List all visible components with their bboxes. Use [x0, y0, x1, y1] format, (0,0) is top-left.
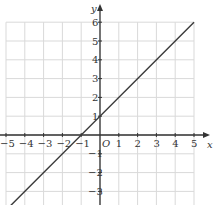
x-tick-label: 5 — [191, 138, 197, 149]
tick-labels: −5−4−3−2−112345654321−1−2−3−4Oxy — [0, 3, 213, 205]
y-axis-arrow-icon — [97, 4, 103, 11]
x-axis-label: x — [207, 139, 213, 150]
x-tick-label: 2 — [135, 138, 141, 149]
y-axis-label: y — [90, 3, 97, 14]
coordinate-plane: −5−4−3−2−112345654321−1−2−3−4Oxy — [0, 0, 216, 205]
x-tick-label: −5 — [0, 138, 15, 149]
x-tick-label: 4 — [172, 138, 178, 149]
y-tick-label: 4 — [92, 54, 98, 65]
y-tick-label: 5 — [92, 36, 98, 47]
origin-label: O — [102, 138, 110, 149]
y-tick-label: 2 — [92, 92, 98, 103]
y-tick-label: 3 — [92, 73, 98, 84]
x-tick-label: −3 — [38, 138, 53, 149]
y-tick-label: −3 — [88, 186, 103, 197]
y-tick-label: 6 — [92, 17, 98, 28]
x-tick-label: −4 — [19, 138, 34, 149]
x-tick-label: 1 — [116, 138, 122, 149]
y-tick-label: −2 — [88, 167, 103, 178]
y-tick-label: −1 — [88, 148, 103, 159]
x-axis-arrow-icon — [203, 132, 210, 138]
axes — [0, 4, 210, 205]
x-tick-label: 3 — [153, 138, 159, 149]
